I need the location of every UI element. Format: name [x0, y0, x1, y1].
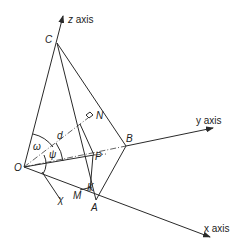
x-axis-label: x axis	[204, 223, 230, 234]
point-label-O: O	[14, 162, 22, 173]
edge-CB	[57, 43, 126, 146]
geometry-diagram: z axis y axis x axis C O A B N P K M ω ψ…	[0, 0, 240, 249]
point-label-P: P	[95, 151, 102, 162]
point-label-M: M	[73, 190, 82, 201]
symbol-chi: χ	[57, 194, 64, 205]
psi-arc	[56, 143, 63, 161]
line-NP	[80, 124, 94, 155]
symbol-omega: ω	[33, 141, 41, 152]
point-label-A: A	[90, 202, 98, 213]
point-label-N: N	[96, 110, 104, 121]
y-axis-line	[126, 128, 213, 146]
line-OP	[24, 155, 94, 167]
point-label-C: C	[45, 34, 53, 45]
chi-arc	[43, 155, 46, 174]
right-angle-marker-N	[86, 112, 93, 118]
z-axis-label: z axis	[67, 14, 94, 25]
x-axis-line	[24, 167, 210, 237]
symbol-psi: ψ	[49, 149, 57, 160]
edge-CA	[57, 43, 96, 200]
point-label-B: B	[126, 133, 133, 144]
y-axis-label: y axis	[196, 115, 222, 126]
symbol-d: d	[57, 130, 63, 141]
